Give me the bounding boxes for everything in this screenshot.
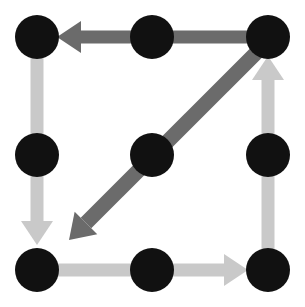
graph-node-middle-center[interactable] [130, 133, 174, 177]
graph-node-bottom-center[interactable] [130, 248, 174, 292]
edge-top-arrowhead-icon [57, 21, 81, 53]
graph-node-bottom-right[interactable] [246, 248, 290, 292]
edge-left-arrowhead-icon [21, 221, 53, 245]
graph-node-top-right[interactable] [246, 15, 290, 59]
graph-figure [0, 0, 305, 307]
edge-left-shaft [31, 42, 44, 221]
graph-node-middle-left[interactable] [15, 133, 59, 177]
edge-diagonal-downleft-arrow [69, 35, 274, 240]
graph-canvas [0, 0, 305, 307]
edge-bottom-arrowhead-icon [224, 254, 248, 286]
graph-node-top-left[interactable] [15, 15, 59, 59]
graph-node-middle-right[interactable] [246, 133, 290, 177]
graph-node-top-center[interactable] [130, 15, 174, 59]
edge-diagonal-shaft [81, 35, 275, 229]
graph-node-bottom-left[interactable] [15, 248, 59, 292]
